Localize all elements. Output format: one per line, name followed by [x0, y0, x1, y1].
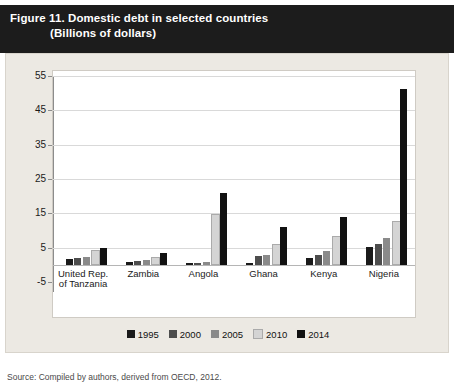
y-axis-tick [48, 179, 52, 180]
bar [246, 263, 253, 265]
zero-baseline [53, 265, 415, 266]
bar [383, 238, 390, 265]
bar [186, 263, 193, 264]
y-axis-tick [48, 110, 52, 111]
bar [203, 262, 210, 264]
y-axis-tick-label: 5 [20, 243, 46, 253]
bar [143, 260, 150, 265]
legend-label: 1995 [138, 329, 159, 340]
bar [280, 227, 287, 265]
chart-panel: -551525354555United Rep.of TanzaniaZambi… [5, 53, 449, 353]
x-axis-category-label: Nigeria [348, 269, 420, 280]
legend-item: 2005 [211, 329, 243, 340]
legend-item: 1995 [127, 329, 159, 340]
legend-swatch [169, 330, 177, 338]
bar [126, 262, 133, 265]
legend-item: 2014 [297, 329, 329, 340]
y-axis-tick-label: 25 [20, 174, 46, 184]
figure-title-line-2: (Billions of dollars) [10, 26, 444, 41]
y-axis-tick [48, 213, 52, 214]
bar [263, 255, 270, 265]
gridline [53, 145, 415, 146]
bar [306, 258, 313, 265]
figure-title-bar: Figure 11. Domestic debt in selected cou… [0, 5, 454, 53]
figure-title-line-1: Figure 11. Domestic debt in selected cou… [10, 11, 444, 26]
y-axis-tick-label: 45 [20, 105, 46, 115]
bar [134, 261, 141, 265]
bar [366, 247, 373, 265]
legend-swatch [127, 330, 135, 338]
bar [323, 251, 330, 265]
bar [160, 253, 167, 265]
bar [255, 256, 262, 265]
legend-label: 2005 [222, 329, 243, 340]
figure-container: Figure 11. Domestic debt in selected cou… [0, 0, 454, 383]
y-axis-line [53, 76, 54, 292]
bar [194, 263, 201, 265]
y-axis-tick [48, 76, 52, 77]
bar [375, 244, 382, 265]
plot-area: -551525354555United Rep.of TanzaniaZambi… [52, 70, 416, 318]
bar [220, 193, 227, 265]
figure-source: Source: Compiled by authors, derived fro… [7, 372, 447, 383]
bar [100, 248, 107, 265]
bar [74, 258, 81, 265]
gridline [53, 76, 415, 77]
bar [83, 257, 90, 265]
legend-label: 2014 [308, 329, 329, 340]
legend-item: 2000 [169, 329, 201, 340]
legend-label: 2010 [266, 329, 287, 340]
chart-legend: 19952000200520102014 [6, 326, 450, 342]
gridline [53, 213, 415, 214]
gridline [53, 179, 415, 180]
bar [400, 89, 407, 265]
y-axis-tick-label: 55 [20, 71, 46, 81]
bar [66, 259, 73, 264]
y-axis-tick [48, 248, 52, 249]
y-axis-tick [48, 145, 52, 146]
legend-swatch [211, 330, 219, 338]
gridline [53, 110, 415, 111]
legend-item: 2010 [253, 329, 287, 340]
legend-label: 2000 [180, 329, 201, 340]
gridline [53, 248, 415, 249]
y-axis-tick-label: -5 [20, 277, 46, 287]
y-axis-tick-label: 15 [20, 208, 46, 218]
y-axis-tick-label: 35 [20, 140, 46, 150]
bar [340, 217, 347, 264]
bar [315, 255, 322, 265]
legend-swatch [297, 330, 305, 338]
legend-swatch [253, 329, 263, 339]
